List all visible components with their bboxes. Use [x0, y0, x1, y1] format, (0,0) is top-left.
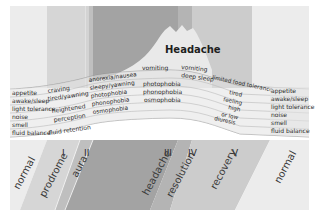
column-prodrome — [47, 6, 86, 88]
migraine-phases-diagram: Headache appetite awake/sleep light tole… — [0, 0, 319, 217]
left-label-appetite: appetite — [12, 89, 37, 97]
right-function-labels: appetite awake/sleep light tolerance noi… — [270, 87, 315, 135]
right-label-noise: noise — [271, 111, 287, 118]
symptom-phonophobia-headache: phonophobia — [143, 88, 183, 96]
headache-title: Headache — [165, 44, 221, 55]
symptom-vomiting-headache: vomiting — [142, 64, 169, 72]
right-label-light-tolerance: light tolerance — [271, 103, 315, 111]
column-normal-left — [10, 6, 47, 88]
right-label-appetite: appetite — [271, 87, 296, 95]
left-label-fluid-balance: fluid balance — [12, 129, 51, 136]
symptom-osmophobia-headache: osmophobia — [144, 96, 181, 104]
right-label-awake-sleep: awake/sleep — [271, 95, 308, 103]
symptom-photophobia-headache: photophobia — [143, 80, 181, 88]
right-label-fluid-balance: fluid balance — [271, 127, 310, 134]
left-label-light-tolerance: light tolerance — [12, 105, 56, 113]
left-label-noise: noise — [12, 113, 28, 120]
left-label-awake-sleep: awake/sleep — [12, 97, 49, 105]
right-label-smell: smell — [271, 119, 287, 126]
left-label-smell: smell — [12, 121, 28, 128]
column-normal-right — [252, 6, 309, 88]
